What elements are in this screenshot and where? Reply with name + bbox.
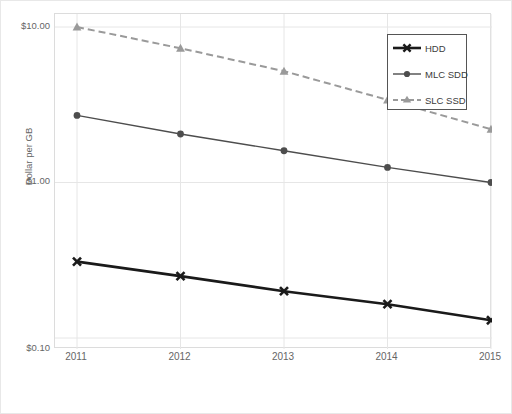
y-axis-title: Dollar per GB [23,97,34,217]
legend-label-mlc-sdd: MLC SDD [425,69,468,80]
x-axis-tick-labels: 20112012201320142015 [54,351,491,371]
x-tick-label: 2014 [375,351,397,362]
legend-swatch-slc-ssd [392,93,422,107]
x-tick-label: 2011 [65,351,87,362]
legend-line-mlc-sdd [392,67,422,81]
legend-label-slc-ssd: SLC SSD [425,95,466,106]
legend-swatch-hdd [392,41,422,55]
legend-swatch-mlc-sdd [392,67,422,81]
data-point-circle [384,164,391,171]
line-chart: $10.00 $1.00 $0.10 Dollar per GB 2011201… [0,0,512,414]
legend-item-slc-ssd: SLC SSD [392,93,466,107]
legend-item-mlc-sdd: MLC SDD [392,67,468,81]
x-tick-label: 2012 [168,351,190,362]
y-tick-label: $10.00 [21,21,50,31]
series-mlc-sdd [74,112,492,186]
circle-marker-icon [404,71,410,77]
legend-line-hdd [392,41,422,55]
chart-legend: HDD MLC SDD SLC SSD [387,34,467,110]
x-tick-label: 2013 [272,351,294,362]
data-point-triangle [280,67,289,75]
data-point-circle [281,147,288,154]
legend-line-slc-ssd [392,93,422,107]
y-tick-label: $0.10 [26,343,50,353]
data-point-circle [488,179,492,186]
legend-label-hdd: HDD [425,43,446,54]
data-point-circle [177,131,184,138]
data-point-circle [74,112,81,119]
x-tick-label: 2015 [479,351,501,362]
series-hdd [73,258,492,325]
legend-item-hdd: HDD [392,41,446,55]
